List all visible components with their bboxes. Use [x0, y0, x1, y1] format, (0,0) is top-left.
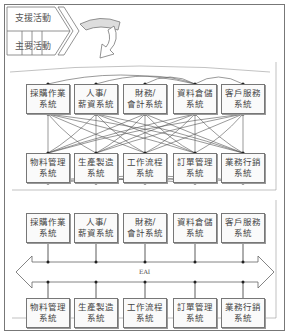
- primary-activities-label: 主要活動: [15, 39, 51, 52]
- customer-service-system-box: 客戶服務系統: [221, 84, 265, 114]
- finance-accounting-system-box: 財務/會計系統: [123, 84, 167, 114]
- eai-workflow-system-box: 工作流程系統: [123, 298, 167, 328]
- procurement-system-box: 採購作業系統: [26, 84, 70, 114]
- materials-management-system-box: 物料管理系統: [26, 153, 70, 183]
- sales-marketing-system-box: 業務行銷系統: [221, 153, 265, 183]
- eai-order-management-system-box: 訂單管理系統: [173, 298, 217, 328]
- eai-finance-accounting-system-box: 財務/會計系統: [123, 213, 167, 243]
- eai-bus-label: EAI: [139, 268, 150, 275]
- order-management-system-box: 訂單管理系統: [173, 153, 217, 183]
- hr-payroll-system-box: 人事/薪資系統: [74, 84, 118, 114]
- eai-hr-payroll-system-box: 人事/薪資系統: [74, 213, 118, 243]
- eai-procurement-system-box: 採購作業系統: [26, 213, 70, 243]
- workflow-system-box: 工作流程系統: [123, 153, 167, 183]
- eai-data-warehouse-system-box: 資料倉儲系統: [173, 213, 217, 243]
- support-activities-label: 支援活動: [15, 11, 51, 24]
- manufacturing-system-box: 生產製造系統: [74, 153, 118, 183]
- eai-sales-marketing-system-box: 業務行銷系統: [221, 298, 265, 328]
- eai-manufacturing-system-box: 生產製造系統: [74, 298, 118, 328]
- eai-materials-management-system-box: 物料管理系統: [26, 298, 70, 328]
- data-warehouse-system-box: 資料倉儲系統: [173, 84, 217, 114]
- eai-customer-service-system-box: 客戶服務系統: [221, 213, 265, 243]
